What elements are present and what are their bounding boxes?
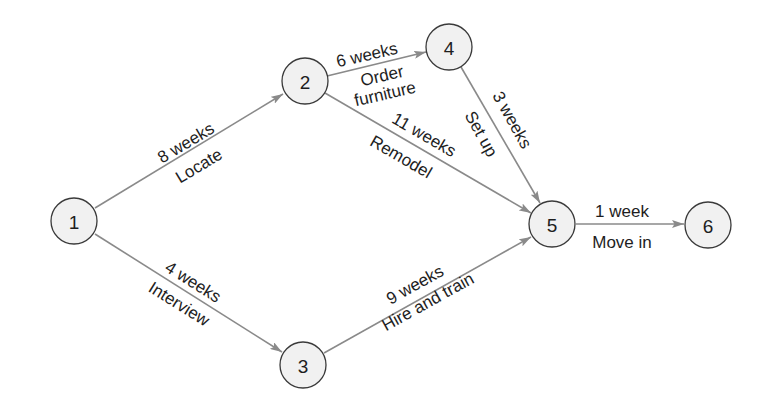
node-label-6: 6 (703, 216, 714, 237)
activity-label-4-5: Set up (461, 108, 501, 160)
node-4: 4 (426, 24, 472, 70)
node-label-1: 1 (69, 212, 80, 233)
duration-label-5-6: 1 week (595, 202, 649, 221)
node-label-4: 4 (444, 38, 455, 59)
edge-1-3 (95, 234, 282, 352)
node-5: 5 (529, 201, 575, 247)
network-diagram: 8 weeks Locate 4 weeks Interview 6 weeks… (0, 0, 773, 411)
node-label-2: 2 (300, 72, 311, 93)
node-2: 2 (282, 58, 328, 104)
edge-labels: 8 weeks Locate 4 weeks Interview 6 weeks… (145, 39, 652, 335)
node-6: 6 (685, 202, 731, 248)
activity-label-5-6: Move in (592, 233, 652, 252)
node-label-5: 5 (547, 215, 558, 236)
node-1: 1 (51, 198, 97, 244)
node-label-3: 3 (298, 356, 309, 377)
node-3: 3 (280, 342, 326, 388)
